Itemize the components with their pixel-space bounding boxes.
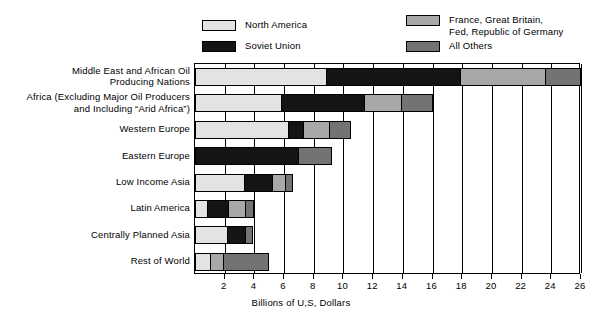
bar-segment[interactable] [196,254,210,270]
stacked-bar[interactable] [195,68,581,86]
x-axis-tick-label: 6 [280,280,285,291]
x-axis-tick-label: 24 [545,280,556,291]
legend-swatch-north-america [202,20,236,31]
bar-segment[interactable] [196,201,207,217]
bar-segment[interactable] [326,69,460,85]
stacked-bar[interactable] [195,174,293,192]
x-axis-tick-label: 20 [485,280,496,291]
legend-entry-all-others: All Others [406,40,492,52]
y-axis-label: Eastern Europe [122,150,190,162]
legend-label-north-america: North America [245,19,307,31]
y-axis-label: Latin America [130,202,190,214]
y-axis-label: Africa (Excluding Major Oil Producers an… [27,91,190,114]
chart-legend: North America Soviet Union France, Great… [0,0,602,58]
bar-row [195,222,579,248]
x-axis-tick [580,274,581,279]
bar-segment[interactable] [207,201,227,217]
legend-entry-soviet-union: Soviet Union [202,40,301,52]
x-axis-tick [313,274,314,279]
bar-segment[interactable] [545,69,580,85]
bar-segment[interactable] [460,69,544,85]
x-axis-tick [402,274,403,279]
legend-label-all-others: All Others [449,40,492,52]
bar-segment[interactable] [298,148,330,164]
x-axis-tick [342,274,343,279]
x-axis-tick-label: 26 [575,280,586,291]
stacked-bar-chart: Middle East and African Oil Producing Na… [0,58,602,325]
bar-segment[interactable] [223,254,268,270]
bar-row [195,143,579,169]
stacked-bar[interactable] [195,253,269,271]
bar-row [195,117,579,143]
bar-row [195,64,579,90]
plot-area [194,63,580,274]
x-axis-tick-label: 18 [456,280,467,291]
legend-label-soviet-union: Soviet Union [245,40,301,52]
legend-entry-north-america: North America [202,19,307,31]
bar-segment[interactable] [210,254,223,270]
x-axis-tick-label: 22 [515,280,526,291]
bar-segment[interactable] [196,95,281,111]
stacked-bar[interactable] [195,121,351,139]
bar-segment[interactable] [303,122,329,138]
x-axis-tick [224,274,225,279]
y-axis-label: Rest of World [131,255,190,267]
x-axis-tick [491,274,492,279]
bar-segment[interactable] [364,95,401,111]
legend-swatch-all-others [406,41,440,52]
bar-segment[interactable] [288,122,303,138]
x-axis-tick [432,274,433,279]
legend-swatch-france-gb-frg [406,15,440,26]
x-axis-tick-label: 14 [396,280,407,291]
legend-swatch-soviet-union [202,41,236,52]
bar-segment[interactable] [227,227,244,243]
x-axis-tick [253,274,254,279]
bar-segment[interactable] [401,95,432,111]
bar-segment[interactable] [196,122,288,138]
x-axis-tick [521,274,522,279]
x-axis-tick [461,274,462,279]
y-axis-label: Centrally Planned Asia [91,229,190,241]
y-axis-label: Western Europe [119,123,190,135]
bar-segment[interactable] [196,175,244,191]
x-axis-tick-label: 8 [310,280,315,291]
bar-segment[interactable] [196,69,326,85]
x-axis-tick-label: 16 [426,280,437,291]
bar-row [195,196,579,222]
legend-label-france-gb-frg: France, Great Britain, Fed, Republic of … [449,14,563,37]
gridline [581,64,582,273]
bar-segment[interactable] [285,175,292,191]
bar-row [195,249,579,275]
stacked-bar[interactable] [195,226,253,244]
x-axis-tick [372,274,373,279]
bar-segment[interactable] [228,201,245,217]
x-axis-tick [550,274,551,279]
bar-segment[interactable] [281,95,363,111]
stacked-bar[interactable] [195,94,433,112]
x-axis-tick-label: 2 [221,280,226,291]
bar-segment[interactable] [196,227,227,243]
x-axis-tick-label: 10 [337,280,348,291]
bar-segment[interactable] [245,201,254,217]
x-axis-tick [283,274,284,279]
stacked-bar[interactable] [195,147,332,165]
x-axis-tick-label: 12 [367,280,378,291]
legend-entry-france-gb-frg: France, Great Britain, Fed, Republic of … [406,14,563,37]
bar-segment[interactable] [244,175,272,191]
stacked-bar[interactable] [195,200,254,218]
bar-segment[interactable] [196,148,298,164]
bar-segment[interactable] [329,122,350,138]
y-axis-label: Middle East and African Oil Producing Na… [72,65,190,88]
bar-row [195,170,579,196]
bar-segment[interactable] [245,227,252,243]
bar-segment[interactable] [272,175,285,191]
x-axis-title: Billions of U,S, Dollars [0,297,602,308]
x-axis-tick-label: 4 [251,280,256,291]
bar-row [195,90,579,116]
y-axis-label: Low Income Asia [116,176,190,188]
